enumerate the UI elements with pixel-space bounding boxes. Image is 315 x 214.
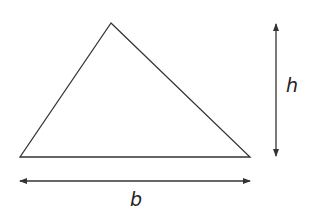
triangle-shape <box>20 23 250 157</box>
base-label: b <box>130 190 142 209</box>
height-label: h <box>286 76 298 95</box>
triangle-diagram <box>0 0 315 214</box>
